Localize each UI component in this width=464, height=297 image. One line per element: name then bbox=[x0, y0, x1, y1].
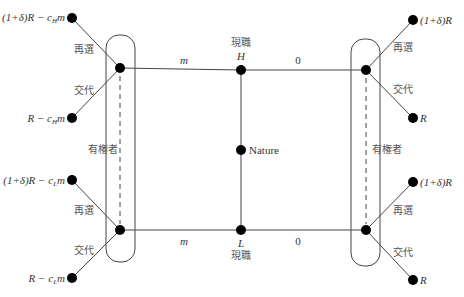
right-info-set-label: 有権者 bbox=[372, 143, 402, 155]
node-h bbox=[236, 65, 246, 75]
leaf-right-3 bbox=[408, 177, 418, 187]
node-nature bbox=[236, 145, 246, 155]
leaf-left-2 bbox=[67, 113, 77, 123]
edge-left-top-reelect bbox=[72, 18, 120, 68]
edge-h-left bbox=[120, 68, 241, 70]
node-voter-left-bottom bbox=[115, 225, 125, 235]
game-tree-diagram: 現職 H Nature L 現職 m 0 m 0 有権者 有権者 再選 交代 再… bbox=[0, 0, 464, 297]
leaf-right-2 bbox=[408, 113, 418, 123]
high-caption: 現職 bbox=[231, 37, 251, 48]
payoff-left-1: (1+δ)R − cHm bbox=[2, 11, 65, 25]
action-reelect-right-top: 再選 bbox=[393, 41, 413, 53]
nature-label: Nature bbox=[249, 144, 279, 156]
edge-label-right-top: 0 bbox=[295, 54, 301, 66]
action-reelect-left-top: 再選 bbox=[74, 43, 94, 55]
leaf-left-1 bbox=[67, 13, 77, 23]
node-voter-right-bottom bbox=[361, 225, 371, 235]
leaf-right-1 bbox=[408, 15, 418, 25]
action-replace-left-bottom: 交代 bbox=[74, 244, 94, 256]
leaf-left-4 bbox=[67, 273, 77, 283]
payoff-right-1: (1+δ)R bbox=[420, 14, 452, 27]
edge-label-left-bottom: m bbox=[180, 235, 188, 247]
edge-label-right-bottom: 0 bbox=[295, 235, 301, 247]
payoff-left-4: R − cLm bbox=[28, 272, 65, 286]
payoff-right-3: (1+δ)R bbox=[420, 176, 452, 189]
action-replace-right-top: 交代 bbox=[393, 83, 413, 95]
action-reelect-left-bottom: 再選 bbox=[74, 204, 94, 216]
action-replace-left-top: 交代 bbox=[74, 84, 94, 96]
high-label: H bbox=[236, 50, 246, 62]
node-voter-right-top bbox=[361, 65, 371, 75]
edge-label-left-top: m bbox=[180, 54, 188, 66]
low-caption: 現職 bbox=[231, 250, 251, 261]
left-info-set-label: 有権者 bbox=[88, 143, 118, 155]
low-label: L bbox=[237, 237, 244, 249]
payoff-right-2: R bbox=[419, 112, 427, 124]
leaf-left-3 bbox=[67, 175, 77, 185]
payoff-left-3: (1+δ)R − cLm bbox=[3, 174, 65, 188]
action-reelect-right-bottom: 再選 bbox=[393, 204, 413, 216]
action-replace-right-bottom: 交代 bbox=[393, 246, 413, 258]
leaf-right-4 bbox=[408, 275, 418, 285]
node-l bbox=[236, 225, 246, 235]
node-voter-left-top bbox=[115, 63, 125, 73]
payoff-right-4: R bbox=[419, 274, 427, 286]
payoff-left-2: R − cHm bbox=[26, 112, 65, 126]
